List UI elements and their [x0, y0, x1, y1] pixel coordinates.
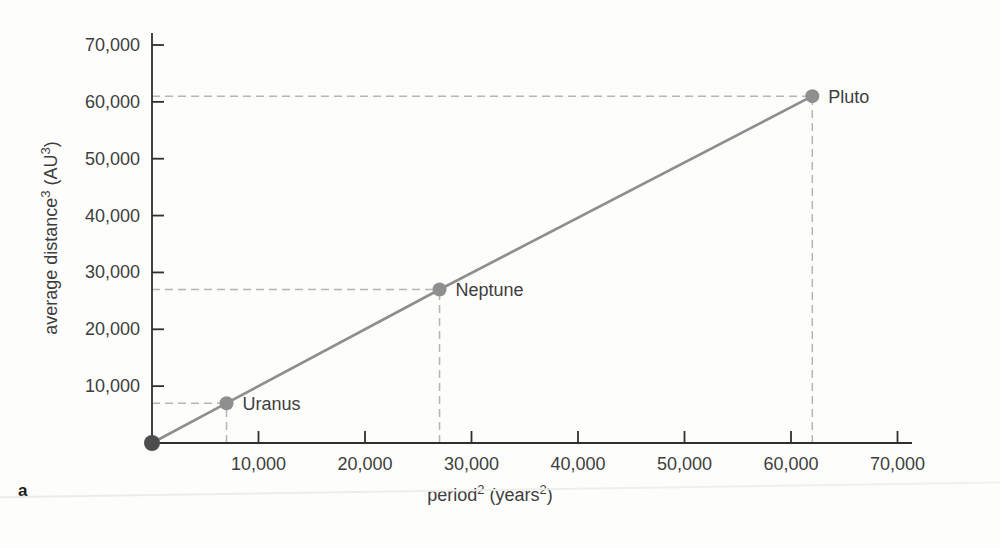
y-axis-title: average distance3 (AU3)	[38, 141, 61, 335]
y-tick-label: 20,000	[85, 319, 140, 339]
data-point-neptune	[433, 282, 447, 296]
y-tick-label: 30,000	[85, 262, 140, 282]
y-tick-label: 50,000	[85, 149, 140, 169]
x-tick-label: 40,000	[550, 454, 605, 474]
x-tick-label: 50,000	[657, 454, 712, 474]
data-point-pluto	[805, 89, 819, 103]
point-label-neptune: Neptune	[456, 280, 524, 300]
data-point-uranus	[220, 396, 234, 410]
y-tick-label: 10,000	[85, 376, 140, 396]
x-tick-label: 30,000	[444, 454, 499, 474]
data-point-origin	[144, 435, 160, 451]
point-label-pluto: Pluto	[828, 87, 869, 107]
y-tick-label: 40,000	[85, 206, 140, 226]
panel-letter: a	[18, 481, 27, 501]
data-line	[152, 96, 812, 443]
x-tick-label: 10,000	[231, 454, 286, 474]
point-label-uranus: Uranus	[243, 394, 301, 414]
y-tick-label: 60,000	[85, 92, 140, 112]
y-tick-label: 70,000	[85, 35, 140, 55]
x-axis-title: period2 (years2)	[427, 482, 553, 505]
x-tick-label: 20,000	[337, 454, 392, 474]
x-tick-label: 70,000	[870, 454, 925, 474]
x-tick-label: 60,000	[763, 454, 818, 474]
